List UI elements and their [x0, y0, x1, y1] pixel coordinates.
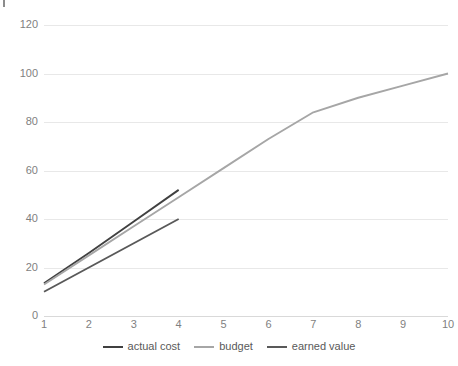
- y-tick-label-40: 40: [4, 213, 38, 224]
- series-line-budget: [44, 74, 448, 285]
- y-tick-label-120: 120: [4, 19, 38, 30]
- x-tick-label-9: 9: [388, 318, 418, 331]
- x-tick-label-2: 2: [74, 318, 104, 331]
- series-line-actual-cost: [44, 190, 179, 283]
- legend-label: earned value: [292, 340, 356, 353]
- x-tick-label-1: 1: [29, 318, 59, 331]
- x-tick-label-7: 7: [298, 318, 328, 331]
- legend-item-budget[interactable]: budget: [194, 340, 253, 353]
- x-tick-label-4: 4: [164, 318, 194, 331]
- legend-item-actual-cost[interactable]: actual cost: [103, 340, 181, 353]
- y-tick-label-60: 60: [4, 165, 38, 176]
- gridline-y-0: [44, 316, 448, 317]
- y-axis: 020406080100120: [0, 25, 38, 316]
- y-tick-label-20: 20: [4, 262, 38, 273]
- x-tick-label-6: 6: [253, 318, 283, 331]
- x-tick-label-3: 3: [119, 318, 149, 331]
- series-line-earned-value: [44, 219, 179, 292]
- x-axis: 12345678910: [44, 318, 448, 334]
- x-tick-label-8: 8: [343, 318, 373, 331]
- legend-swatch-icon: [267, 346, 287, 348]
- x-tick-label-5: 5: [209, 318, 239, 331]
- y-tick-label-100: 100: [4, 68, 38, 79]
- axis-nub: [3, 0, 5, 7]
- legend-label: actual cost: [128, 340, 181, 353]
- series-layer: [44, 25, 448, 316]
- legend-label: budget: [219, 340, 253, 353]
- legend-swatch-icon: [194, 346, 214, 348]
- chart-legend: actual costbudgetearned value: [0, 340, 458, 353]
- plot-area: [44, 25, 448, 316]
- line-chart: 020406080100120 12345678910 actual costb…: [0, 0, 458, 366]
- y-tick-label-80: 80: [4, 116, 38, 127]
- legend-item-earned-value[interactable]: earned value: [267, 340, 356, 353]
- legend-swatch-icon: [103, 346, 123, 348]
- x-tick-label-10: 10: [433, 318, 458, 331]
